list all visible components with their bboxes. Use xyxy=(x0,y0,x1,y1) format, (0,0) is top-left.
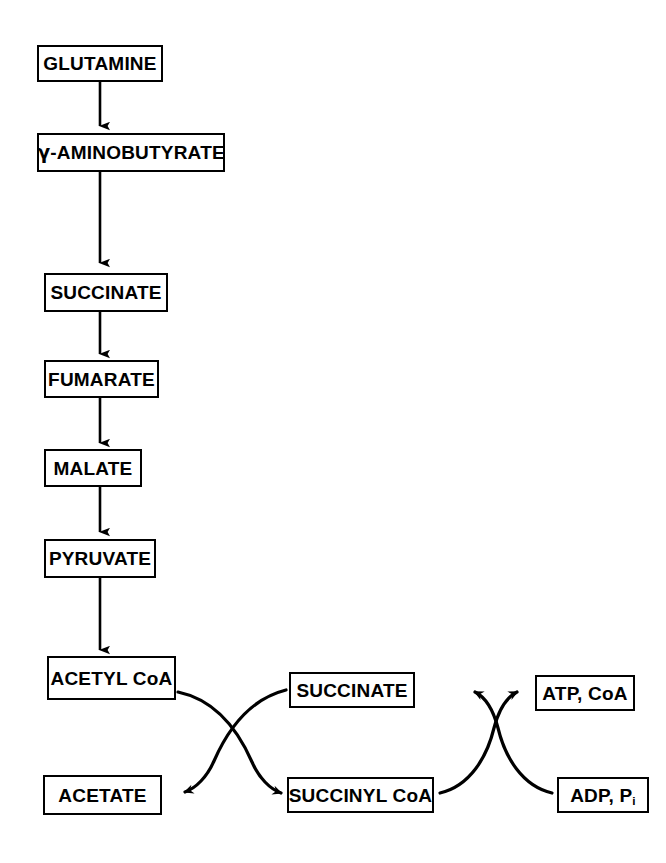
node-succinate: SUCCINATE xyxy=(44,273,168,312)
node-pyruvate: PYRUVATE xyxy=(44,539,156,578)
node-adp-pi: ADP, Pi xyxy=(557,777,649,813)
node-adp-pi-text: ADP, P xyxy=(570,785,632,806)
arrow-layer xyxy=(0,0,666,863)
node-succinate-label: SUCCINATE xyxy=(48,283,163,302)
pathway-diagram: GLUTAMINE γ-AMINOBUTYRATE SUCCINATE FUMA… xyxy=(0,0,666,863)
node-adp-pi-subscript: i xyxy=(632,794,635,807)
node-succinate-2: SUCCINATE xyxy=(289,672,415,708)
node-fumarate: FUMARATE xyxy=(44,360,159,398)
node-acetate: ACETATE xyxy=(43,775,162,815)
node-acetyl-coa: ACETYL CoA xyxy=(47,656,176,700)
node-acetate-label: ACETATE xyxy=(56,786,148,805)
node-acetyl-coa-label: ACETYL CoA xyxy=(49,669,175,688)
node-glutamine: GLUTAMINE xyxy=(37,45,163,82)
curve-succinate-to-acetate xyxy=(185,690,286,792)
node-atp-coa-label: ATP, CoA xyxy=(540,684,629,703)
curve-succinyl-coa-to-succinate xyxy=(440,692,517,793)
node-aminobutyrate-label: γ-AMINOBUTYRATE xyxy=(35,143,227,162)
curve-acetyl-coa-to-succinyl-coa xyxy=(178,692,281,793)
node-aminobutyrate: γ-AMINOBUTYRATE xyxy=(37,133,225,172)
node-succinyl-coa-label: SUCCINYL CoA xyxy=(287,786,435,805)
node-succinate-2-label: SUCCINATE xyxy=(294,681,409,700)
node-adp-pi-label: ADP, Pi xyxy=(568,786,638,805)
gamma-symbol: γ xyxy=(37,141,50,163)
node-glutamine-label: GLUTAMINE xyxy=(41,54,158,73)
node-aminobutyrate-text: -AMINOBUTYRATE xyxy=(50,142,225,163)
node-pyruvate-label: PYRUVATE xyxy=(47,549,153,568)
node-fumarate-label: FUMARATE xyxy=(46,370,157,389)
node-malate: MALATE xyxy=(44,449,142,487)
node-atp-coa: ATP, CoA xyxy=(535,675,635,711)
node-succinyl-coa: SUCCINYL CoA xyxy=(287,777,434,813)
node-malate-label: MALATE xyxy=(52,459,135,478)
